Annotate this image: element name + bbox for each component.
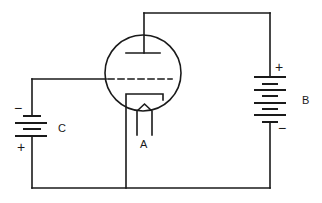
- filament: [137, 104, 152, 135]
- grid-wire: [32, 79, 106, 116]
- filament-label: A: [140, 138, 148, 150]
- battery-b-label: B: [302, 94, 309, 106]
- battery-b-negative-sign: −: [278, 120, 286, 136]
- circuit-diagram: A C B + − − +: [0, 0, 322, 203]
- battery-c-positive-sign: +: [17, 139, 25, 155]
- plate: [126, 13, 160, 53]
- battery-c-negative-sign: −: [14, 100, 22, 116]
- plate-wire: [144, 13, 270, 77]
- tube-envelope: [105, 35, 181, 111]
- battery-c-label: C: [58, 122, 66, 134]
- battery-b-positive-sign: +: [275, 59, 283, 75]
